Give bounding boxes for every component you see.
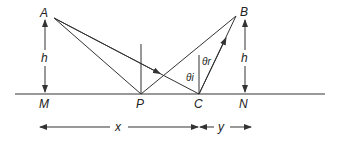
ray-a-p: [54, 18, 141, 94]
angle-incident-label: θi: [186, 73, 194, 83]
point-n-label: N: [239, 98, 248, 110]
ray-a-c-arrow: [54, 18, 160, 74]
reflection-diagram: A B M P C N h h x y θi θr: [0, 0, 338, 141]
distance-x-label: x: [115, 121, 121, 133]
point-m-label: M: [39, 98, 49, 110]
height-left-label: h: [41, 52, 48, 64]
point-c-label: C: [194, 98, 203, 110]
angle-reflected-label: θr: [202, 57, 211, 67]
diagram-lines: [0, 0, 338, 141]
height-right-label: h: [241, 52, 248, 64]
point-b-label: B: [240, 6, 248, 18]
point-p-label: P: [136, 98, 144, 110]
point-a-label: A: [40, 7, 48, 19]
distance-y-label: y: [218, 121, 224, 133]
